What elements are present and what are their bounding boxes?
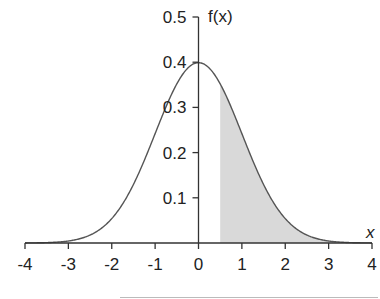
y-tick-label: 0.5 (163, 8, 187, 27)
x-axis-ticks: -4-3-2-101234 (17, 243, 376, 274)
shaded-tail-area (220, 84, 372, 243)
x-tick-label: -4 (17, 255, 32, 274)
x-axis-label: x (365, 223, 375, 242)
x-tick-label: 0 (194, 255, 203, 274)
y-tick-label: 0.1 (163, 189, 187, 208)
y-tick-label: 0.3 (163, 98, 187, 117)
y-axis-ticks: 0.10.20.30.40.5 (163, 8, 199, 208)
normal-distribution-chart: -4-3-2-101234 0.10.20.30.40.5 f(x) x (0, 0, 380, 299)
y-tick-label: 0.2 (163, 144, 187, 163)
x-tick-label: 2 (281, 255, 290, 274)
y-tick-label: 0.4 (163, 53, 187, 72)
x-tick-label: 3 (324, 255, 333, 274)
x-tick-label: -2 (104, 255, 119, 274)
x-tick-label: -3 (61, 255, 76, 274)
x-tick-label: -1 (148, 255, 163, 274)
x-tick-label: 4 (367, 255, 376, 274)
y-axis-label: f(x) (208, 7, 233, 26)
x-tick-label: 1 (237, 255, 246, 274)
